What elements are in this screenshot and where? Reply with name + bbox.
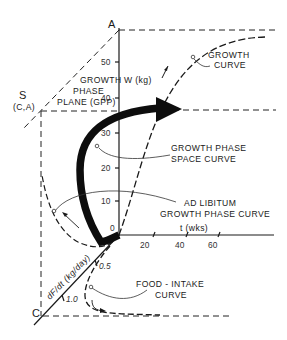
growth-phase-diagram: A W (kg) 50 40 30 20 10 0 t (wks) 20 40 … xyxy=(0,0,287,340)
w-tick-10: 10 xyxy=(101,196,111,206)
weight-axis-label: W (kg) xyxy=(124,75,152,85)
plane-label-line2: PHASE xyxy=(73,86,104,96)
ad-libitum-label-line1: AD LIBITUM xyxy=(184,198,236,208)
ad-libitum-label-line2: GROWTH PHASE CURVE xyxy=(160,209,270,219)
food-intake-label-line2: CURVE xyxy=(155,290,187,300)
point-s-label: S xyxy=(19,89,26,101)
phase-curve-arrowhead xyxy=(156,97,182,122)
plane-label-line3: PLANE (GPP) xyxy=(57,97,116,107)
growth-curve-label-line1: GROWTH xyxy=(208,50,250,60)
axis-end-label-c: C xyxy=(32,307,40,319)
point-s-sublabel: (C,A) xyxy=(13,102,35,112)
growth-phase-space-curve xyxy=(80,108,160,242)
plane-label-line1: GROWTH xyxy=(80,75,122,85)
origin-label: 0 xyxy=(110,223,115,233)
growth-curve-label-line2: CURVE xyxy=(214,60,246,70)
phase-space-label-line2: SPACE CURVE xyxy=(171,154,236,164)
axis-end-label-a: A xyxy=(108,18,116,30)
food-tick-1-0: 1.0 xyxy=(66,294,78,304)
t-tick-20: 20 xyxy=(140,240,150,250)
time-axis-label: t (wks) xyxy=(180,223,208,233)
phase-space-label-line1: GROWTH PHASE xyxy=(171,143,246,153)
food-axis xyxy=(34,235,119,325)
w-tick-30: 30 xyxy=(101,128,111,138)
w-tick-20: 20 xyxy=(101,163,111,173)
construction-lines xyxy=(24,30,276,316)
food-intake-label-line1: FOOD - INTAKE xyxy=(136,279,204,289)
t-tick-60: 60 xyxy=(208,240,218,250)
phase-space-leader xyxy=(99,148,170,159)
t-tick-40: 40 xyxy=(175,240,185,250)
food-tick-0-5: 0.5 xyxy=(99,261,111,271)
food-intake-leader xyxy=(92,288,147,298)
w-tick-50: 50 xyxy=(101,57,111,67)
growth-curve-leader xyxy=(194,59,210,67)
